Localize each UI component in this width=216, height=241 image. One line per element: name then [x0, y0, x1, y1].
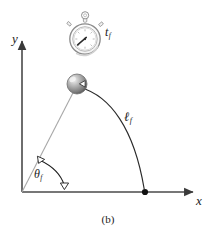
time-label: tf: [105, 26, 111, 39]
stopwatch-crown-hole: [84, 14, 87, 17]
stopwatch-lug-left: [67, 21, 72, 26]
equilibrium-dot: [142, 189, 148, 195]
pendulum-string: [22, 87, 76, 192]
stopwatch-hand-pivot: [84, 38, 86, 40]
angle-arc-path: [41, 161, 65, 185]
time-label-symbol: t: [105, 25, 108, 39]
time-label-subscript: f: [109, 31, 111, 40]
sphere-bob: [67, 74, 87, 94]
string-line: [22, 87, 76, 192]
length-label-symbol: ℓ: [124, 109, 129, 124]
x-axis-label: x: [196, 194, 202, 207]
y-axis-label: y: [12, 32, 18, 45]
stopwatch-lug-right: [99, 22, 104, 27]
equilibrium-dot-circle: [142, 189, 148, 195]
length-label: ℓf: [124, 110, 132, 125]
trajectory-arc: [81, 88, 145, 190]
angle-label: θf: [34, 168, 42, 181]
angle-label-subscript: f: [40, 173, 42, 182]
figure-caption: (b): [0, 213, 216, 225]
physics-figure-pendulum-final-state: y x tf ℓf θf (b): [0, 0, 216, 241]
trajectory-arc-path: [81, 88, 145, 190]
angle-arrow-lower: [60, 183, 68, 190]
length-label-subscript: f: [130, 116, 132, 125]
stopwatch: [67, 12, 104, 56]
